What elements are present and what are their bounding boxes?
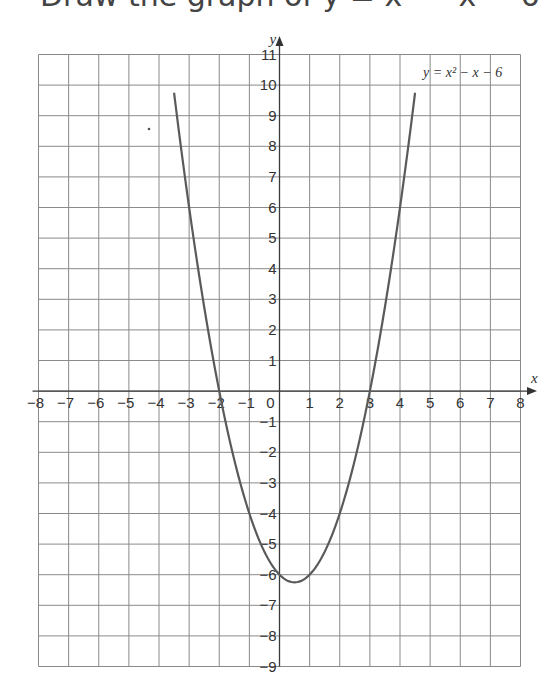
x-axis-arrow-icon [527, 387, 537, 395]
x-tick-labels: −8−7−6−5−4−3−2−1012345678 [27, 394, 525, 411]
x-tick-label: −6 [87, 394, 104, 411]
y-tick-label: 1 [268, 352, 276, 369]
y-axis-arrow-icon [276, 36, 284, 46]
y-tick-label: −8 [259, 627, 276, 644]
y-tick-label: −1 [259, 413, 276, 430]
equation-label: y = x² − x − 6 [421, 65, 502, 80]
x-tick-label: 0 [266, 394, 274, 411]
y-tick-label: −3 [259, 474, 276, 491]
parabola-curve [174, 93, 415, 583]
y-tick-label: −5 [259, 535, 276, 552]
x-tick-label: 7 [486, 394, 494, 411]
y-tick-label: 3 [268, 290, 276, 307]
y-tick-label: 8 [268, 137, 276, 154]
x-tick-label: 5 [426, 394, 434, 411]
y-tick-label: 6 [268, 199, 276, 216]
y-tick-label: 7 [268, 168, 276, 185]
y-tick-label: 2 [268, 321, 276, 338]
x-tick-label: −1 [238, 394, 255, 411]
axes [33, 36, 538, 667]
x-axis-label: x [530, 370, 538, 386]
y-tick-label: 10 [260, 76, 277, 93]
y-tick-label: 5 [268, 229, 276, 246]
y-tick-label: −2 [259, 443, 276, 460]
x-tick-label: 4 [396, 394, 404, 411]
x-tick-label: 8 [516, 394, 524, 411]
x-tick-label: −5 [117, 394, 134, 411]
y-tick-label: 4 [268, 260, 276, 277]
y-tick-label: −9 [259, 658, 276, 675]
x-tick-label: −7 [57, 394, 74, 411]
y-tick-label: 9 [268, 107, 276, 124]
y-axis-label: y [268, 31, 277, 47]
x-tick-label: −3 [178, 394, 195, 411]
y-tick-label: −4 [259, 505, 276, 522]
x-tick-label: −4 [147, 394, 164, 411]
stray-dot [148, 128, 151, 131]
y-tick-label: −7 [259, 596, 276, 613]
x-tick-label: 6 [456, 394, 464, 411]
y-tick-label: 11 [261, 46, 277, 63]
x-tick-label: 2 [336, 394, 344, 411]
x-tick-label: −8 [27, 394, 44, 411]
quadratic-graph: −8−7−6−5−4−3−2−1012345678 1110987654321−… [0, 0, 547, 689]
x-tick-label: 1 [305, 394, 313, 411]
